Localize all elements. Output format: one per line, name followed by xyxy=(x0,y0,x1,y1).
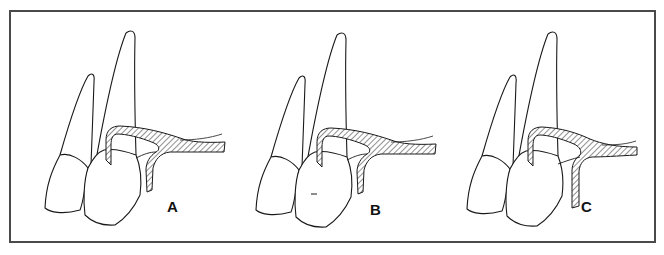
panel-c-drawing xyxy=(467,32,637,226)
tooth-diagrams xyxy=(0,0,664,255)
panel-label-a: A xyxy=(167,199,178,214)
panel-label-c: C xyxy=(581,199,592,214)
panel-label-b: B xyxy=(370,202,381,217)
panel-a-drawing xyxy=(45,31,225,225)
panel-b-drawing xyxy=(256,33,436,227)
